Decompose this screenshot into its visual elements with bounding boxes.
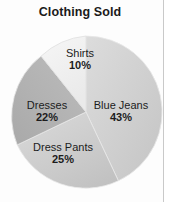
pie-label-blue-jeans-value: 43%	[88, 112, 154, 124]
page-vertical-rule	[163, 0, 164, 202]
pie-chart: Blue Jeans 43% Dress Pants 25% Dresses 2…	[0, 0, 172, 202]
chart-page: Clothing Sold	[0, 0, 172, 202]
pie-label-blue-jeans: Blue Jeans 43%	[88, 100, 154, 123]
pie-label-shirts: Shirts 10%	[52, 48, 108, 71]
page-right-margin	[164, 0, 172, 202]
pie-label-dresses-name: Dresses	[16, 100, 78, 112]
pie-label-dress-pants: Dress Pants 25%	[22, 142, 104, 165]
pie-label-blue-jeans-name: Blue Jeans	[88, 100, 154, 112]
pie-label-dresses-value: 22%	[16, 112, 78, 124]
pie-label-dress-pants-name: Dress Pants	[22, 142, 104, 154]
pie-label-shirts-value: 10%	[52, 60, 108, 72]
pie-label-shirts-name: Shirts	[52, 48, 108, 60]
pie-label-dresses: Dresses 22%	[16, 100, 78, 123]
pie-label-dress-pants-value: 25%	[22, 154, 104, 166]
